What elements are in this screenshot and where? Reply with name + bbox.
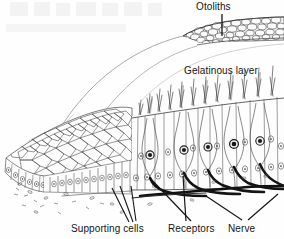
leader-nerve <box>206 196 242 220</box>
otolith-layer <box>182 17 284 48</box>
label-nerve: Nerve <box>228 223 255 234</box>
macula-illustration <box>0 0 284 239</box>
label-supporting-cells: Supporting cells <box>71 223 144 234</box>
label-otoliths: Otoliths <box>196 1 231 12</box>
label-receptors: Receptors <box>168 223 214 234</box>
figure-canvas: Otoliths Gelatinous layer Supporting cel… <box>0 0 284 239</box>
sensory-epithelium <box>132 96 284 194</box>
scan-artifact <box>6 2 162 32</box>
label-gelatinous-layer: Gelatinous layer <box>184 65 258 76</box>
